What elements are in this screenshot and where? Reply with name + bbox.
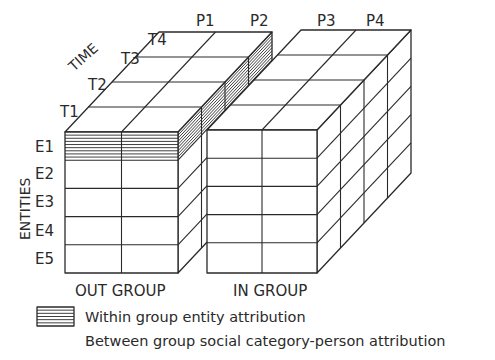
person-label-p4: P4 [366,12,385,30]
group-label-in: IN GROUP [233,282,307,300]
legend-label-between: Between group social category-person att… [85,333,446,349]
time-label-t2: T2 [87,76,107,94]
time-label-t3: T3 [120,50,140,68]
person-label-p2: P2 [250,12,269,30]
time-label-t1: T1 [59,103,79,121]
person-label-p3: P3 [317,12,336,30]
legend-hatch-swatch [37,307,74,326]
cube-geometry [65,30,411,273]
entity-label-e3: E3 [35,193,54,211]
time-axis-title: TIME [65,40,101,75]
entity-label-e5: E5 [35,250,54,268]
cube-diagram: P1 P2 P3 P4 T1 T2 T3 T4 TIME E1 E2 E3 E4… [0,0,495,360]
time-label-t4: T4 [147,31,167,49]
entity-label-e4: E4 [35,222,54,240]
group-label-out: OUT GROUP [75,282,166,300]
legend: Within group entity attribution Between … [37,307,446,349]
entity-label-e2: E2 [35,165,54,183]
entity-label-e1: E1 [35,138,54,156]
entities-axis-title: ENTITIES [17,177,33,240]
person-label-p1: P1 [196,12,215,30]
legend-label-within: Within group entity attribution [85,309,306,325]
